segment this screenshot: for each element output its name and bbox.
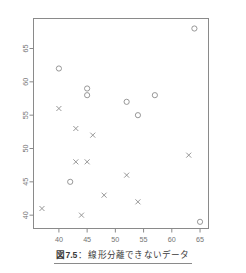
caption-separator: ：	[77, 250, 88, 260]
figure-container: 404550556065 404550556065 図7.5：線形分離できないデ…	[0, 0, 246, 273]
data-point-cross	[135, 199, 140, 204]
figure-caption: 図7.5：線形分離できないデータ	[0, 249, 246, 264]
data-point-circle	[192, 26, 197, 31]
caption-text: 線形分離できないデータ	[88, 250, 189, 260]
data-point-cross	[102, 193, 107, 198]
plot-border	[34, 19, 209, 229]
data-point-cross	[56, 106, 61, 111]
x-tick-label: 40	[55, 235, 63, 244]
data-point-cross	[90, 133, 95, 138]
data-markers	[39, 26, 202, 225]
data-point-circle	[56, 66, 61, 71]
y-tick-label: 55	[21, 111, 30, 119]
x-tick-label: 55	[140, 235, 148, 244]
data-point-circle	[85, 86, 90, 91]
data-point-cross	[73, 126, 78, 131]
data-point-circle	[135, 113, 140, 118]
data-point-circle	[124, 99, 129, 104]
plot-frame	[34, 19, 209, 229]
scatter-plot: 404550556065 404550556065	[0, 0, 246, 246]
x-tick-label: 45	[83, 235, 91, 244]
data-point-circle	[68, 179, 73, 184]
y-axis: 404550556065	[21, 45, 34, 220]
data-point-cross	[186, 153, 191, 158]
data-point-cross	[79, 213, 84, 218]
data-point-cross	[85, 159, 90, 164]
x-tick-label: 60	[168, 235, 176, 244]
y-tick-label: 40	[21, 211, 30, 219]
data-point-circle	[85, 93, 90, 98]
plot-canvas: 404550556065 404550556065	[0, 0, 246, 246]
y-tick-label: 60	[21, 78, 30, 86]
data-point-circle	[152, 93, 157, 98]
x-axis: 404550556065	[55, 229, 204, 244]
x-tick-label: 65	[196, 235, 204, 244]
x-tick-label: 50	[111, 235, 119, 244]
data-point-cross	[73, 159, 78, 164]
data-point-circle	[197, 219, 202, 224]
data-point-cross	[124, 173, 129, 178]
caption-number: 図7.5	[56, 250, 77, 260]
caption-underline-box: 図7.5：線形分離できないデータ	[54, 249, 191, 264]
y-tick-label: 50	[21, 145, 30, 153]
data-point-cross	[39, 206, 44, 211]
y-tick-label: 65	[21, 45, 30, 53]
y-tick-label: 45	[21, 178, 30, 186]
